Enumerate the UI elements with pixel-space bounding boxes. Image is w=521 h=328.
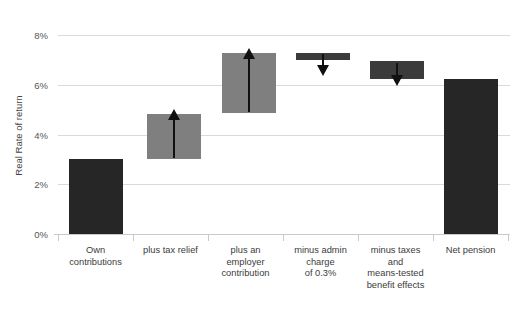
category-label-line: benefit effects <box>358 280 433 292</box>
category-label-line: employer <box>208 257 283 269</box>
plot-area <box>58 35 510 234</box>
arrow-shaft-employer <box>248 55 250 112</box>
bar-net-pension <box>444 79 498 235</box>
gridline-4 <box>58 135 510 136</box>
category-label-line: and <box>358 257 433 269</box>
y-tick-label-8: 8% <box>34 30 48 41</box>
category-label-line: plus an <box>208 245 283 257</box>
category-tick-4 <box>358 234 359 241</box>
category-tick-0 <box>58 234 59 241</box>
category-label-line: plus tax relief <box>133 245 208 257</box>
x-axis-categories: Own contributions plus tax relief plus a… <box>58 234 510 328</box>
category-label-line: charge <box>283 257 358 269</box>
category-label-minus-admin-charge: minus admin charge of 0.3% <box>283 245 358 280</box>
category-label-line: means-tested <box>358 268 433 280</box>
category-label-line: Own <box>58 245 133 257</box>
category-label-line: Net pension <box>433 245 508 257</box>
category-label-line: minus taxes <box>358 245 433 257</box>
category-tick-1 <box>133 234 134 241</box>
category-label-line: minus admin <box>283 245 358 257</box>
category-label-plus-tax-relief: plus tax relief <box>133 245 208 257</box>
category-label-minus-taxes-benefits: minus taxes and means-tested benefit eff… <box>358 245 433 291</box>
arrow-up-icon-tax-relief <box>168 109 180 120</box>
category-label-line: contributions <box>58 257 133 269</box>
y-tick-label-0: 0% <box>34 229 48 240</box>
y-tick-label-6: 6% <box>34 79 48 90</box>
category-label-plus-employer-contribution: plus an employer contribution <box>208 245 283 280</box>
gridline-8 <box>58 35 510 36</box>
category-tick-2 <box>208 234 209 241</box>
category-tick-3 <box>283 234 284 241</box>
category-label-net-pension: Net pension <box>433 245 508 257</box>
category-label-line: contribution <box>208 268 283 280</box>
gridline-6 <box>58 85 510 86</box>
waterfall-chart: Real Rate of return 8% 6% 4% 2% 0% <box>0 0 521 328</box>
category-label-line: of 0.3% <box>283 268 358 280</box>
y-tick-label-2: 2% <box>34 179 48 190</box>
arrow-down-icon-taxes-benefits <box>391 75 403 86</box>
y-tick-label-4: 4% <box>34 129 48 140</box>
category-tick-5 <box>433 234 434 241</box>
arrow-shaft-tax-relief <box>173 116 175 158</box>
category-tick-6 <box>508 234 509 241</box>
gridline-2 <box>58 184 510 185</box>
category-label-own-contributions: Own contributions <box>58 245 133 268</box>
arrow-up-icon-employer <box>243 48 255 59</box>
y-axis-tick-labels: 8% 6% 4% 2% 0% <box>0 35 52 234</box>
arrow-down-icon-admin-charge <box>317 65 329 76</box>
bar-own-contributions <box>69 159 123 234</box>
